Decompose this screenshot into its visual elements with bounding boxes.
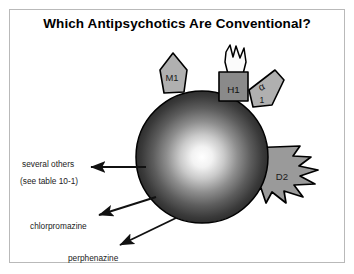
arrow-chlorpromazine [99,197,156,215]
annotation-perphenazine: perphenazine [68,253,118,263]
annotation-chlorpromazine: chlorpromazine [30,221,87,231]
annotation-see-table: (see table 10-1) [20,176,78,186]
m1-label: M1 [165,72,178,83]
alpha1-sublabel: 1 [260,95,265,105]
alpha1-shape [249,70,284,107]
arrow-perphenazine [120,218,176,245]
receptor-h1-flame [225,45,246,74]
h1-flame-shape [225,45,246,74]
h1-label: H1 [227,84,240,95]
drug-sphere [136,91,268,223]
receptor-alpha1: α 1 [249,70,284,107]
figure-container: Which Antipsychotics Are Conventional? M… [0,0,354,274]
receptor-diagram: M1 α 1 D2 H1 [0,0,354,274]
annotation-several-others: several others [22,159,74,169]
d2-label: D2 [276,171,288,182]
receptor-m1: M1 [160,53,187,93]
receptor-h1: H1 [219,72,248,101]
